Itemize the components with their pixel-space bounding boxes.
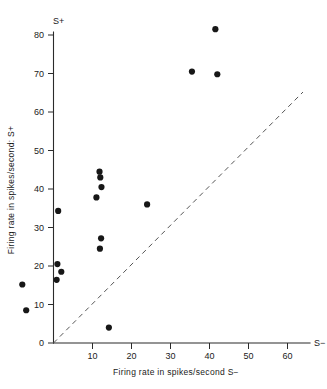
y-tick-label-60: 60 (34, 107, 44, 117)
plot-canvas: 0 10 20 30 40 50 60 70 80 10 20 30 40 50… (0, 0, 327, 389)
y-axis-ticks (48, 35, 54, 343)
x-axis-title: Firing rate in spikes/second S− (113, 367, 239, 377)
data-point (212, 26, 218, 32)
data-point (97, 174, 103, 180)
data-point (55, 208, 61, 214)
data-point (144, 201, 150, 207)
data-point (98, 235, 104, 241)
data-point (98, 184, 104, 190)
x-tick-label-30: 30 (165, 351, 175, 361)
y-tick-label-70: 70 (34, 69, 44, 79)
data-points-layer (19, 26, 220, 331)
y-tick-label-0: 0 (39, 338, 44, 348)
data-point (93, 194, 99, 200)
y-tick-label-80: 80 (34, 30, 44, 40)
y-tick-label-30: 30 (34, 223, 44, 233)
x-axis-ticks (93, 343, 288, 349)
x-tick-label-60: 60 (282, 351, 292, 361)
data-point (96, 169, 102, 175)
data-point (97, 246, 103, 252)
x-tick-label-40: 40 (204, 351, 214, 361)
x-tick-label-10: 10 (87, 351, 97, 361)
data-point (58, 269, 64, 275)
y-tick-label-20: 20 (34, 261, 44, 271)
data-point (106, 325, 112, 331)
x-tick-label-20: 20 (126, 351, 136, 361)
data-point (23, 307, 29, 313)
data-point (189, 68, 195, 74)
data-point (54, 261, 60, 267)
data-point (54, 277, 60, 283)
y-tick-label-50: 50 (34, 146, 44, 156)
y-axis-end-label: S+ (53, 16, 64, 26)
data-point (19, 281, 25, 287)
scatter-plot-figure: 0 10 20 30 40 50 60 70 80 10 20 30 40 50… (0, 0, 327, 389)
unity-diagonal-line (54, 92, 304, 343)
data-point (214, 71, 220, 77)
x-axis-end-label: S− (314, 338, 325, 348)
y-axis-title: Firing rate in spikes/second: S+ (6, 126, 16, 254)
y-tick-label-10: 10 (34, 300, 44, 310)
y-tick-label-40: 40 (34, 184, 44, 194)
x-tick-label-50: 50 (243, 351, 253, 361)
